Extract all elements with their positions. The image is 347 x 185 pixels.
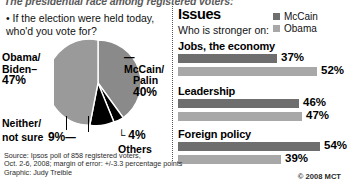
bar-jobs-obama bbox=[178, 67, 317, 76]
legend-label-mccain: McCain bbox=[284, 11, 318, 22]
issue-title-foreign-policy: Foreign policy bbox=[178, 128, 345, 140]
issues-subtitle: Who is stronger on: bbox=[178, 24, 269, 36]
bar-row-foreign-mccain: 54% bbox=[178, 142, 345, 151]
bar-value-jobs-obama: 52% bbox=[321, 64, 344, 76]
source-note: Source: Ipsos poll of 858 registered vot… bbox=[4, 152, 234, 177]
issues-title: Issues bbox=[178, 6, 221, 22]
bar-value-foreign-obama: 39% bbox=[285, 152, 308, 164]
bar-value-foreign-mccain: 54% bbox=[324, 139, 347, 151]
pie-label-mccain-name: — McCain/ bbox=[124, 52, 172, 75]
issue-title-jobs: Jobs, the economy bbox=[178, 40, 345, 52]
bar-leadership-mccain bbox=[178, 99, 299, 108]
pie-label-neither: Neither/ not sure 9%— bbox=[2, 118, 76, 143]
bar-jobs-mccain bbox=[178, 54, 277, 63]
bar-row-jobs-obama: 52% bbox=[178, 67, 345, 76]
pie-label-mccain: — McCain/ Palin 40% bbox=[124, 52, 172, 98]
legend-label-obama: Obama bbox=[284, 23, 317, 34]
pie-label-others-pct: 4% bbox=[128, 128, 145, 142]
pie-label-mccain-pct: 40% bbox=[133, 87, 172, 99]
bar-row-jobs-mccain: 37% bbox=[178, 54, 345, 63]
pie-slice-obama bbox=[54, 39, 98, 125]
pie-label-neither-pct: 9% bbox=[48, 130, 65, 144]
poll-question: • If the election were held today, who'd… bbox=[6, 12, 171, 37]
bar-value-leadership-mccain: 46% bbox=[303, 96, 326, 108]
bar-row-leadership-obama: 47% bbox=[178, 112, 345, 121]
legend-item-obama: Obama bbox=[273, 22, 318, 34]
pie-label-neither-name2: not sure 9%— bbox=[2, 130, 76, 144]
pie-label-neither-name: Neither/ bbox=[2, 118, 76, 130]
bar-foreign-mccain bbox=[178, 142, 320, 151]
pie-label-obama-pct: 47% bbox=[2, 75, 41, 87]
leader-line-others bbox=[88, 116, 89, 132]
bar-row-leadership-mccain: 46% bbox=[178, 99, 345, 108]
panel-divider bbox=[172, 6, 173, 161]
issue-group-jobs: Jobs, the economy 37% 52% bbox=[178, 40, 345, 76]
copyright-note: © 2008 MCT bbox=[298, 172, 341, 181]
bar-value-jobs-mccain: 37% bbox=[281, 51, 304, 63]
legend-swatch-obama bbox=[273, 25, 280, 32]
bar-value-leadership-obama: 47% bbox=[306, 109, 329, 121]
leader-line-neither bbox=[66, 116, 67, 130]
legend-item-mccain: McCain bbox=[273, 10, 318, 22]
issues-legend: McCain Obama bbox=[273, 10, 318, 34]
source-line-3: Graphic: Judy Treible bbox=[4, 169, 234, 177]
legend-swatch-mccain bbox=[273, 13, 280, 20]
pie-label-obama: Obama/ Biden– 47% bbox=[2, 52, 41, 87]
issue-group-leadership: Leadership 46% 47% bbox=[178, 85, 345, 121]
bar-leadership-obama bbox=[178, 112, 302, 121]
